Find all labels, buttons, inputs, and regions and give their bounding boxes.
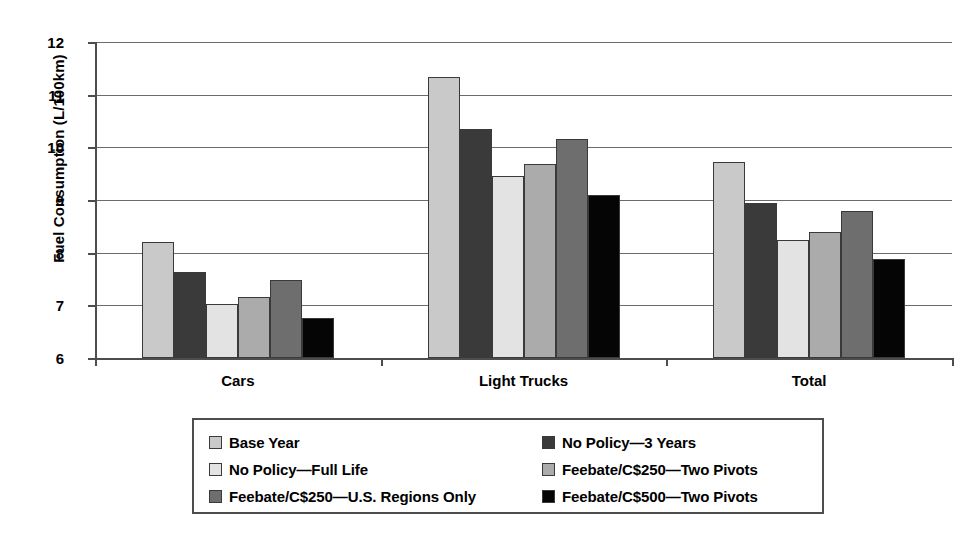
x-category-label-total: Total xyxy=(699,372,919,389)
legend-label: No Policy—Full Life xyxy=(229,461,368,478)
x-axis-end-tick-0 xyxy=(95,358,97,366)
x-tick-mark xyxy=(381,358,383,366)
legend-column-left: Base YearNo Policy—Full LifeFeebate/C$25… xyxy=(209,429,539,510)
y-tick-mark-8 xyxy=(88,253,95,255)
x-axis-end-tick-1 xyxy=(952,358,954,366)
legend: Base YearNo Policy—Full LifeFeebate/C$25… xyxy=(192,418,824,514)
y-tick-label-9: 9 xyxy=(4,192,64,209)
y-tick-mark-12 xyxy=(88,42,95,44)
legend-item: Feebate/C$250—U.S. Regions Only xyxy=(209,483,539,509)
legend-swatch-icon xyxy=(542,490,555,503)
x-category-label-cars: Cars xyxy=(128,372,348,389)
y-axis-title: Fuel Consumption (L/100km) xyxy=(50,9,67,309)
bar-chart-figure: Fuel Consumption (L/100km) 6789101112 Ca… xyxy=(0,0,972,549)
legend-item: No Policy—3 Years xyxy=(542,429,826,455)
legend-swatch-icon xyxy=(542,436,555,449)
legend-swatch-icon xyxy=(542,463,555,476)
y-tick-mark-6 xyxy=(88,358,95,360)
plot-frame xyxy=(95,42,952,358)
legend-item: Feebate/C$500—Two Pivots xyxy=(542,483,826,509)
x-category-label-light-trucks: Light Trucks xyxy=(414,372,634,389)
y-tick-label-10: 10 xyxy=(4,139,64,156)
x-tick-mark xyxy=(666,358,668,366)
legend-label: Feebate/C$250—Two Pivots xyxy=(562,461,758,478)
y-tick-mark-11 xyxy=(88,95,95,97)
y-tick-label-8: 8 xyxy=(4,244,64,261)
legend-swatch-icon xyxy=(209,490,222,503)
legend-item: Feebate/C$250—Two Pivots xyxy=(542,456,826,482)
y-tick-mark-7 xyxy=(88,305,95,307)
legend-swatch-icon xyxy=(209,463,222,476)
legend-item: Base Year xyxy=(209,429,539,455)
y-tick-mark-9 xyxy=(88,200,95,202)
legend-label: Feebate/C$250—U.S. Regions Only xyxy=(229,488,476,505)
gridline-6 xyxy=(95,358,952,360)
legend-label: Base Year xyxy=(229,434,300,451)
y-tick-label-7: 7 xyxy=(4,297,64,314)
legend-label: Feebate/C$500—Two Pivots xyxy=(562,488,758,505)
y-tick-mark-10 xyxy=(88,147,95,149)
legend-item: No Policy—Full Life xyxy=(209,456,539,482)
plot-area: 6789101112 xyxy=(95,42,952,358)
legend-label: No Policy—3 Years xyxy=(562,434,696,451)
legend-column-right: No Policy—3 YearsFeebate/C$250—Two Pivot… xyxy=(542,429,826,510)
y-tick-label-12: 12 xyxy=(4,34,64,51)
y-tick-label-6: 6 xyxy=(4,350,64,367)
legend-swatch-icon xyxy=(209,436,222,449)
y-tick-label-11: 11 xyxy=(4,86,64,103)
